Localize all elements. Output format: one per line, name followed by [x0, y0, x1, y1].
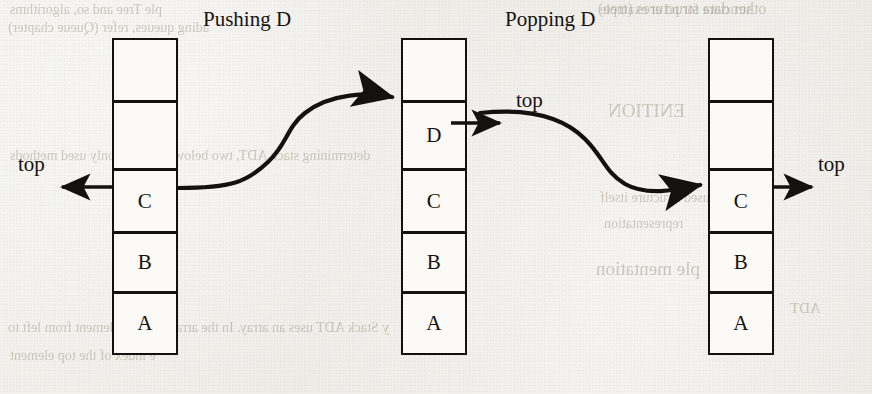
- ghost-text-line: structure for pd er example: [600, 2, 752, 18]
- ghost-text-line: y Stack ADT uses an array. In the array,…: [8, 320, 389, 336]
- ghost-text-line: other data structures (tree): [598, 0, 766, 18]
- stack-cell: [708, 38, 774, 102]
- stack-cell: [112, 101, 178, 170]
- stack-before: C B A: [112, 38, 178, 355]
- top-pointer-label-left: top: [18, 152, 45, 177]
- stack-cell-b: B: [708, 232, 774, 293]
- stack-cell-a: A: [401, 292, 467, 355]
- stack-after-push: D C B A: [401, 38, 467, 355]
- ghost-text-line: determining stack ADT, two below are com…: [10, 148, 370, 164]
- ghost-text-line: ENITION: [608, 100, 685, 122]
- figure-canvas: ple Tree and so, algorithms structure fo…: [0, 0, 872, 394]
- stack-cell-b: B: [112, 232, 178, 293]
- stack-cell-a: A: [708, 292, 774, 355]
- top-pointer-label-middle: top: [516, 88, 543, 113]
- caption-pushing-d: Pushing D: [203, 7, 291, 32]
- top-pointer-label-right: top: [818, 152, 845, 177]
- pop-flow-arrow: [480, 112, 700, 192]
- stack-cell-d: D: [401, 101, 467, 170]
- ghost-text-line: ading queues, refer (Queue chapter): [8, 20, 209, 36]
- stack-cell-b: B: [401, 232, 467, 293]
- ghost-text-line: ADT: [790, 300, 821, 317]
- stack-after-pop: C B A: [708, 38, 774, 355]
- ghost-text-line: ple Tree and so, algorithms: [10, 2, 162, 18]
- caption-popping-d: Popping D: [505, 7, 595, 32]
- ghost-text-line: ple mentation: [596, 258, 700, 280]
- stack-cell-a: A: [112, 292, 178, 355]
- stack-cell-c: C: [708, 169, 774, 233]
- stack-cell: [401, 38, 467, 102]
- stack-cell-c: C: [112, 169, 178, 233]
- stack-cell: [112, 38, 178, 102]
- ghost-text-line: representation: [604, 216, 683, 232]
- push-flow-arrow: [178, 94, 392, 188]
- stack-cell: [708, 101, 774, 170]
- ghost-text-line: used structure itself: [600, 190, 710, 206]
- stack-cell-c: C: [401, 169, 467, 233]
